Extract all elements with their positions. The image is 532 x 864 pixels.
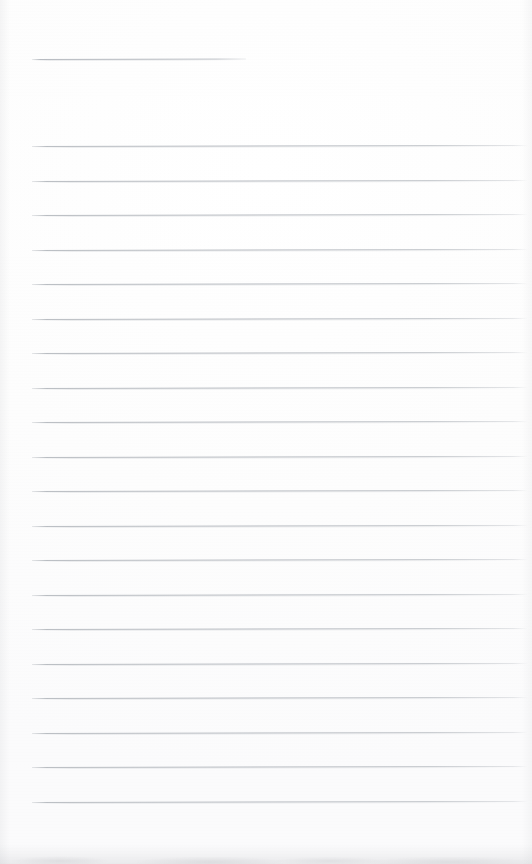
body-rule-12: [32, 525, 528, 527]
body-rule-10: [32, 456, 528, 458]
body-rule-16: [32, 663, 528, 665]
body-rule-6: [32, 318, 528, 320]
body-rule-1: [32, 145, 528, 147]
body-rule-8: [32, 387, 528, 389]
body-rule-5: [32, 283, 528, 285]
body-rule-2: [32, 180, 528, 182]
body-rule-7: [32, 352, 528, 354]
body-rule-4: [32, 249, 528, 251]
body-rule-11: [32, 490, 528, 492]
body-rule-3: [32, 214, 528, 216]
body-rule-15: [32, 628, 528, 630]
body-rule-17: [32, 697, 528, 699]
body-rule-9: [32, 421, 528, 423]
body-rule-20: [32, 801, 528, 803]
body-rule-19: [32, 766, 528, 768]
body-rule-14: [32, 594, 528, 596]
header-rule: [32, 59, 246, 60]
body-rule-18: [32, 732, 528, 734]
body-rule-13: [32, 559, 528, 561]
scanned-page: [0, 0, 532, 864]
